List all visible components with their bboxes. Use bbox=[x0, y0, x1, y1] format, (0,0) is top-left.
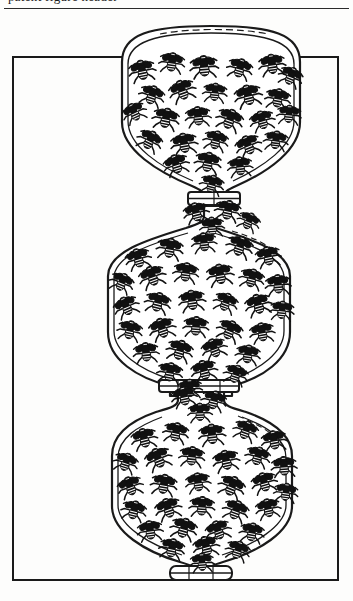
figure-page: patent figure header bbox=[0, 0, 353, 601]
fly-vessel-figure bbox=[0, 0, 353, 601]
